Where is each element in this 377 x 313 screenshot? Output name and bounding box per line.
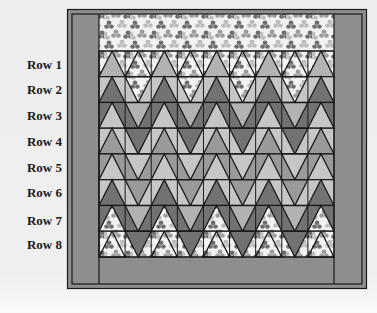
quilt-diagram xyxy=(0,0,377,313)
quilt-row-3 xyxy=(99,103,334,129)
quilt-row-6 xyxy=(99,180,334,206)
quilt-row-4 xyxy=(99,128,334,154)
top-print-band xyxy=(99,14,334,51)
quilt-row-5 xyxy=(99,154,334,180)
quilt-row-1 xyxy=(99,51,334,77)
quilt-rows xyxy=(99,51,334,257)
quilt-row-8 xyxy=(99,231,334,257)
quilt-row-2 xyxy=(99,77,334,103)
quilt-row-7 xyxy=(99,206,334,232)
